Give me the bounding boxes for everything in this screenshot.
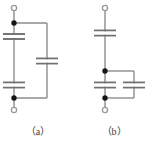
circuit-figure: （a） （b）: [0, 0, 152, 146]
caption-row: （a） （b）: [0, 122, 152, 146]
top-terminal-a: [11, 5, 16, 10]
upper-parallel-node-b: [102, 68, 107, 73]
bottom-terminal-a: [11, 107, 16, 112]
lower-parallel-node-b: [102, 95, 107, 100]
capacitor-top-left-a: [3, 33, 25, 39]
caption-panel-a: （a）: [0, 122, 76, 139]
capacitor-parallel-left-b: [94, 83, 116, 88]
circuit-panel-b: [94, 5, 145, 112]
top-terminal-b: [102, 5, 107, 10]
bottom-node-a: [11, 95, 16, 100]
top-node-a: [11, 20, 16, 25]
caption-panel-b: （b）: [76, 122, 152, 139]
circuit-canvas: [0, 0, 152, 122]
circuit-panel-a: [3, 5, 58, 112]
capacitor-parallel-right-b: [123, 83, 145, 88]
bottom-terminal-b: [102, 107, 107, 112]
capacitor-series-top-b: [94, 31, 116, 36]
capacitor-right-branch-a: [36, 59, 58, 64]
capacitor-bottom-left-a: [3, 83, 25, 88]
